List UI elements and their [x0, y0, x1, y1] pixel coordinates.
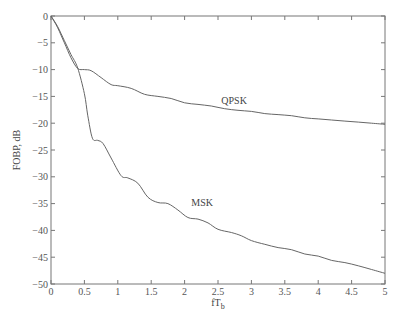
x-tick-label: 0.5: [78, 286, 91, 297]
x-tick-label: 2.5: [212, 286, 225, 297]
x-tick-label: 4: [316, 286, 321, 297]
y-tick-label: −30: [32, 171, 48, 182]
x-tick-label: 1: [115, 286, 120, 297]
series-label-msk: MSK: [191, 197, 213, 208]
fobp-chart: 00.511.522.533.544.55 0−5−10−15−20−25−30…: [0, 0, 405, 329]
x-axis-ticks: 00.511.522.533.544.55: [49, 16, 388, 297]
y-tick-label: −40: [32, 225, 48, 236]
series-curves: [51, 16, 385, 273]
series-label-qpsk: QPSK: [221, 95, 247, 106]
y-tick-label: −35: [32, 198, 48, 209]
x-tick-label: 4.5: [345, 286, 358, 297]
x-tick-label: 2: [182, 286, 187, 297]
y-tick-label: −20: [32, 118, 48, 129]
x-tick-label: 1.5: [145, 286, 158, 297]
series-labels: QPSKMSK: [191, 95, 247, 208]
x-tick-label: 0: [49, 286, 54, 297]
y-tick-label: −45: [32, 252, 48, 263]
y-tick-label: 0: [43, 11, 48, 22]
x-tick-label: 5: [383, 286, 388, 297]
x-tick-label: 3: [249, 286, 254, 297]
x-axis-title: fTb: [211, 297, 224, 311]
curve-qpsk: [51, 16, 385, 124]
y-tick-label: −5: [37, 37, 48, 48]
y-tick-label: −50: [32, 279, 48, 290]
y-tick-label: −15: [32, 91, 48, 102]
y-tick-label: −25: [32, 145, 48, 156]
curve-msk: [51, 16, 385, 273]
plot-frame: [51, 16, 385, 284]
y-axis-title: FOBP, dB: [11, 129, 22, 170]
x-tick-label: 3.5: [279, 286, 292, 297]
y-tick-label: −10: [32, 64, 48, 75]
y-axis-ticks: 0−5−10−15−20−25−30−35−40−45−50: [32, 11, 385, 290]
